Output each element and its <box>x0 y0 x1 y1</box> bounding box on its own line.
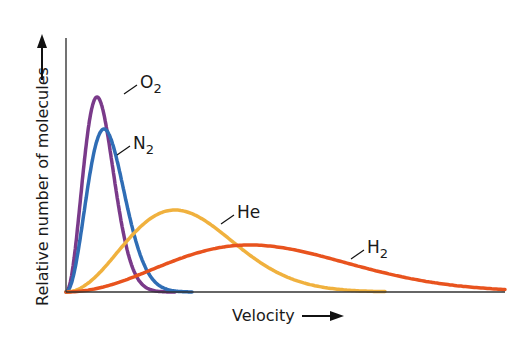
leader-line-he <box>221 215 234 224</box>
x-axis-arrow-icon <box>302 311 344 321</box>
series-label-o2: O2 <box>140 72 162 96</box>
leader-line-n2 <box>117 146 130 155</box>
series-label-h2: H2 <box>367 237 388 261</box>
curve-o2 <box>66 97 175 292</box>
curve-he <box>66 210 385 292</box>
leader-line-o2 <box>124 85 137 94</box>
series-label-n2: N2 <box>133 133 154 157</box>
x-axis-label: Velocity <box>232 306 295 325</box>
leader-line-h2 <box>351 250 364 259</box>
series-labels: O2N2HeH2 <box>117 72 388 261</box>
distribution-curves <box>66 97 505 292</box>
series-label-he: He <box>237 202 260 222</box>
y-axis-label: Relative number of molecules <box>33 67 52 306</box>
maxwell-boltzmann-chart: O2N2HeH2 Velocity Relative number of mol… <box>0 0 528 346</box>
